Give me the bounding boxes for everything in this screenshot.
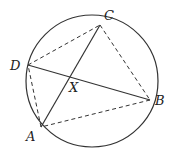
label-d: D bbox=[9, 58, 21, 73]
chord-ac bbox=[41, 25, 100, 127]
segment-dc bbox=[28, 25, 100, 65]
circle bbox=[26, 15, 158, 147]
segment-ba bbox=[41, 100, 150, 127]
segment-cb bbox=[100, 25, 150, 100]
chord-db bbox=[28, 65, 150, 100]
label-x: X bbox=[68, 80, 79, 95]
label-a: A bbox=[25, 129, 35, 144]
label-b: B bbox=[154, 93, 165, 108]
segment-ad bbox=[28, 65, 41, 127]
geometry-diagram: C D B A X bbox=[0, 0, 174, 156]
label-c: C bbox=[104, 8, 114, 23]
